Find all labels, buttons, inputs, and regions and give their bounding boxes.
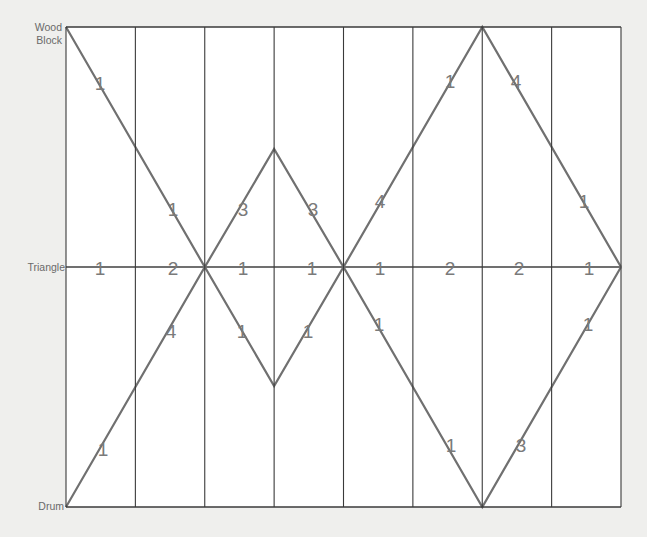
beat-number-upper: 3 (238, 199, 249, 220)
beat-number-upper: 4 (375, 191, 386, 212)
beat-number-lower: 4 (166, 321, 177, 342)
diagram-canvas: 113341411211122114111131 (0, 0, 647, 537)
beat-number-lower: 1 (237, 321, 248, 342)
beat-number-triangle: 1 (375, 258, 386, 279)
beat-number-triangle: 1 (95, 258, 106, 279)
beat-number-lower: 1 (303, 321, 314, 342)
beat-number-lower: 1 (583, 314, 594, 335)
beat-number-upper: 1 (445, 71, 456, 92)
beat-number-triangle: 1 (584, 258, 595, 279)
beat-number-upper: 1 (168, 199, 179, 220)
beat-number-upper: 3 (308, 199, 319, 220)
beat-number-triangle: 2 (514, 258, 525, 279)
beat-number-upper: 1 (579, 191, 590, 212)
beat-number-lower: 3 (516, 435, 527, 456)
beat-number-upper: 1 (95, 73, 106, 94)
beat-number-triangle: 1 (307, 258, 318, 279)
beat-number-upper: 4 (511, 71, 522, 92)
beat-number-lower: 1 (374, 314, 385, 335)
beat-number-triangle: 2 (445, 258, 456, 279)
beat-number-triangle: 1 (238, 258, 249, 279)
beat-number-lower: 1 (446, 435, 457, 456)
beat-number-triangle: 2 (168, 258, 179, 279)
beat-number-lower: 1 (98, 439, 109, 460)
rhythm-diagram: Wood Block Triangle Drum 113341411211122… (0, 0, 647, 537)
